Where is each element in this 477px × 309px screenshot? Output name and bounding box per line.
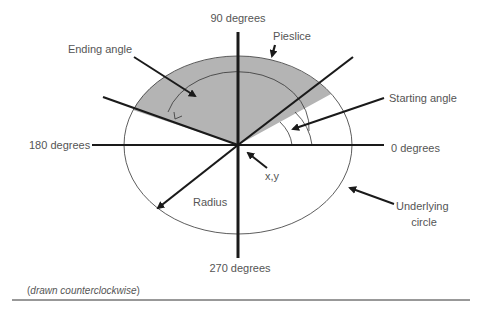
label-radius: Radius: [193, 196, 228, 208]
caption: (drawn counterclockwise): [27, 285, 140, 296]
label-180-degrees: 180 degrees: [29, 139, 91, 151]
pieslice-diagram: 90 degrees Ending angle Pieslice Startin…: [0, 0, 477, 309]
label-underlying-line1: Underlying: [396, 200, 449, 212]
label-underlying-line2: circle: [411, 216, 437, 228]
xy-pointer: [248, 153, 267, 168]
label-270-degrees: 270 degrees: [209, 262, 271, 274]
pieslice-pointer: [272, 45, 275, 56]
label-ending-angle: Ending angle: [68, 43, 132, 55]
label-pieslice: Pieslice: [273, 30, 311, 42]
label-90-degrees: 90 degrees: [210, 12, 266, 24]
starting-angle-arc: [280, 122, 292, 145]
underlying-circle-pointer: [350, 188, 394, 204]
label-starting-angle: Starting angle: [389, 92, 457, 104]
pieslice-shape: [133, 56, 331, 145]
label-xy: x,y: [265, 170, 280, 182]
label-0-degrees: 0 degrees: [391, 142, 440, 154]
